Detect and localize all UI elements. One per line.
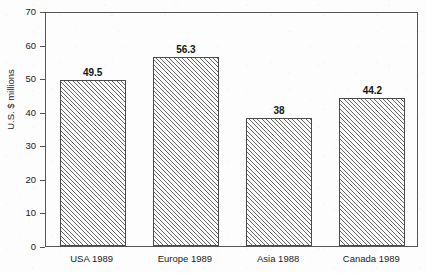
y-axis-tick-label: 30 bbox=[25, 140, 36, 151]
plot-area: 49.556.33844.2 bbox=[45, 12, 418, 247]
bar: 49.5 bbox=[60, 80, 126, 246]
y-axis-title: U.S. $ millions bbox=[5, 52, 16, 148]
x-axis-category-label: Asia 1988 bbox=[257, 253, 299, 264]
bar: 56.3 bbox=[153, 57, 219, 246]
x-axis-category-label: USA 1989 bbox=[70, 253, 113, 264]
y-axis-tick-label: 10 bbox=[25, 207, 36, 218]
bar-value-label: 44.2 bbox=[363, 85, 382, 96]
y-axis-tick-label: 60 bbox=[25, 40, 36, 51]
bar-chart-figure: U.S. $ millions 010203040506070 49.556.3… bbox=[0, 0, 427, 273]
x-axis-category-label: Europe 1989 bbox=[158, 253, 212, 264]
bar: 44.2 bbox=[339, 98, 405, 246]
bar-value-label: 38 bbox=[274, 105, 285, 116]
y-axis-tick-label: 50 bbox=[25, 73, 36, 84]
y-axis-tick-label: 70 bbox=[25, 6, 36, 17]
y-axis-tick-mark bbox=[40, 247, 45, 248]
bar: 38 bbox=[246, 118, 312, 246]
y-axis-tick-label: 0 bbox=[31, 241, 36, 252]
y-axis-tick-label: 20 bbox=[25, 174, 36, 185]
bar-value-label: 56.3 bbox=[176, 44, 195, 55]
y-axis-tick-label: 40 bbox=[25, 107, 36, 118]
bar-value-label: 49.5 bbox=[83, 67, 102, 78]
x-axis-category-label: Canada 1989 bbox=[343, 253, 400, 264]
